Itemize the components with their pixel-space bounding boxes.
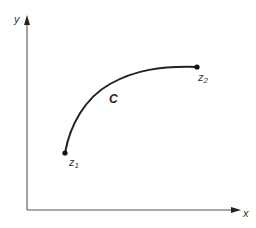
y-axis-arrow-icon xyxy=(24,15,30,25)
x-axis-label: x xyxy=(242,207,249,219)
start-point-label: z1 xyxy=(68,156,79,170)
end-point-subscript: 2 xyxy=(203,76,209,85)
curve-c: C xyxy=(65,67,197,153)
end-point-dot-icon xyxy=(194,64,199,69)
y-axis: y xyxy=(13,13,30,210)
x-axis-arrow-icon xyxy=(231,207,241,213)
end-point-z2: z2 xyxy=(194,64,208,85)
y-axis-label: y xyxy=(13,13,21,25)
curve-label: C xyxy=(109,92,118,106)
start-point-z1: z1 xyxy=(62,150,79,170)
end-point-label: z2 xyxy=(197,71,209,85)
curve-path xyxy=(65,67,197,153)
complex-plane-diagram: y x C z1 z2 xyxy=(0,0,256,228)
start-point-dot-icon xyxy=(62,150,67,155)
x-axis: x xyxy=(27,207,249,219)
start-point-subscript: 1 xyxy=(75,161,79,170)
